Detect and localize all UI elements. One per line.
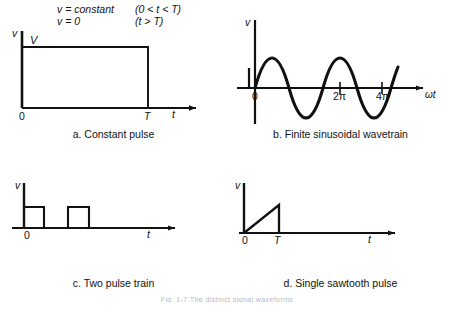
- origin-label-d: 0: [242, 234, 248, 246]
- x-axis-arrowhead-c: [168, 225, 175, 230]
- x-axis-label-d: t: [368, 233, 371, 245]
- y-axis-label-a: v: [12, 27, 17, 39]
- x-tick-label-4pi-b: 4π: [376, 90, 389, 102]
- x-tick-label-2pi-b: 2π: [333, 90, 346, 102]
- panel-constant-pulse: v = constant(0 < t < T) v = 0(t > T) v V…: [0, 0, 227, 155]
- y-axis-label-d: v: [235, 179, 240, 191]
- origin-label-a: 0: [19, 110, 25, 122]
- figure-caption-fragment: Fig. 1-7 The distinct signal waveforms: [0, 296, 454, 302]
- sawtooth-waveform: [244, 205, 279, 233]
- panel-single-sawtooth-pulse: v 0 T t d. Single sawtooth pulse: [227, 155, 454, 310]
- constant-pulse-waveform: [22, 47, 148, 108]
- x-tick-label-0-b: 0: [252, 90, 258, 102]
- panel-two-pulse-train: v 0 t c. Two pulse train: [0, 155, 227, 310]
- x-axis-label-c: t: [147, 228, 150, 240]
- origin-label-c: 0: [24, 229, 30, 241]
- two-pulse-waveform: [24, 207, 89, 228]
- x-axis-arrowhead-a: [189, 105, 196, 111]
- panel-caption-c: c. Two pulse train: [0, 277, 227, 289]
- x-tick-label-a: T: [144, 110, 150, 122]
- x-axis-arrowhead-d: [388, 230, 395, 235]
- x-axis-arrowhead-b: [416, 85, 423, 90]
- y-axis-label-b: v: [245, 16, 250, 28]
- panel-caption-d: d. Single sawtooth pulse: [227, 277, 454, 289]
- panel-sinusoidal-wavetrain: v 0 2π 4π ωt b. Finite sinusoidal wavetr…: [227, 0, 454, 155]
- figure-sheet: v = constant(0 < t < T) v = 0(t > T) v V…: [0, 0, 454, 310]
- panel-caption-b: b. Finite sinusoidal wavetrain: [227, 128, 454, 140]
- amplitude-label-a: V: [30, 34, 37, 46]
- x-axis-label-b: ωt: [425, 89, 436, 100]
- x-axis-label-a: t: [172, 108, 175, 120]
- panel-caption-a: a. Constant pulse: [0, 128, 227, 140]
- y-axis-label-c: v: [15, 179, 20, 191]
- x-tick-label-d: T: [274, 234, 280, 246]
